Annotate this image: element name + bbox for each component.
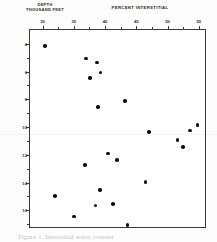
chart-title: PERCENT INTERSTITIAL <box>76 5 204 10</box>
data-point <box>126 223 130 227</box>
data-point <box>88 76 92 80</box>
y-axis-minor-tick <box>27 169 30 170</box>
x-axis-tick-label: 35 <box>71 19 76 24</box>
data-point <box>84 57 88 61</box>
x-axis-minor-tick <box>121 27 122 30</box>
data-point <box>147 130 151 134</box>
x-axis-minor-tick <box>152 27 153 30</box>
data-point <box>196 123 200 127</box>
y-axis-minor-tick <box>27 196 30 197</box>
y-axis-tick-label: 6 <box>18 69 27 74</box>
y-axis-minor-tick <box>27 58 30 59</box>
y-axis-minor-tick <box>27 85 30 86</box>
y-axis-minor-tick <box>27 224 30 225</box>
x-axis-tick-label: 40 <box>103 19 108 24</box>
y-axis-tick-label: 10 <box>18 125 27 130</box>
data-point <box>123 99 127 103</box>
data-point <box>72 215 76 219</box>
y-axis-title: DEPTH THOUSAND FEET <box>14 2 76 12</box>
x-axis-minor-tick <box>58 27 59 30</box>
figure-scatter-plot: DEPTH THOUSAND FEET PERCENT INTERSTITIAL… <box>0 0 217 242</box>
x-axis-tick <box>43 26 44 31</box>
data-point <box>53 194 57 198</box>
data-point <box>99 71 103 75</box>
x-axis-tick-label: 50 <box>165 19 170 24</box>
x-axis-tick <box>105 26 106 31</box>
data-point <box>96 105 100 109</box>
data-point <box>106 152 110 156</box>
y-axis-tick-label: 14 <box>18 180 27 185</box>
x-axis-minor-tick <box>183 27 184 30</box>
y-axis-minor-tick <box>27 141 30 142</box>
y-axis-tick-label: 16 <box>18 208 27 213</box>
scan-artifact <box>0 134 217 135</box>
y-axis-tick-label: 8 <box>18 97 27 102</box>
x-axis-tick <box>74 26 75 31</box>
y-axis-tick-label: 4 <box>18 41 27 46</box>
data-point <box>94 204 98 208</box>
x-axis-tick <box>136 26 137 31</box>
data-point <box>83 163 87 167</box>
x-axis-minor-tick <box>89 27 90 30</box>
data-point <box>95 61 99 65</box>
data-point <box>43 44 47 48</box>
figure-caption: Figure 1. Interstitial water content <box>18 233 208 241</box>
y-axis-title-line2: THOUSAND FEET <box>14 7 76 12</box>
data-point <box>111 202 115 206</box>
x-axis-tick-label: 45 <box>134 19 139 24</box>
x-axis-tick-label: 55 <box>196 19 201 24</box>
y-axis-tick-label: 12 <box>18 152 27 157</box>
x-axis-tick <box>168 26 169 31</box>
data-point <box>144 180 148 184</box>
data-point <box>115 158 119 162</box>
y-axis-minor-tick <box>27 113 30 114</box>
plot-area: 30354045505546810121416 <box>29 29 206 228</box>
x-axis-tick-label: 30 <box>40 19 45 24</box>
data-point <box>181 145 185 149</box>
data-point <box>98 188 102 192</box>
data-point <box>188 129 192 133</box>
data-point <box>176 138 180 142</box>
x-axis-tick <box>199 26 200 31</box>
